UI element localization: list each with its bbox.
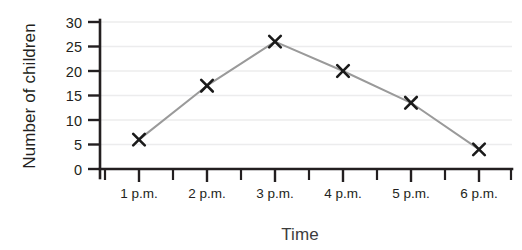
y-tick-label-10: 10 [66, 113, 82, 129]
y-tick-label-5: 5 [74, 137, 82, 153]
y-tick-label-15: 15 [66, 88, 82, 104]
data-point-2pm[interactable] [201, 80, 213, 92]
data-point-3pm[interactable] [269, 36, 281, 48]
y-axis-title: Number of children [20, 23, 39, 168]
data-point-6pm[interactable] [473, 144, 485, 156]
y-tick-label-30: 30 [66, 15, 82, 31]
y-axis [88, 20, 100, 178]
data-point-5pm[interactable] [405, 97, 417, 109]
y-tick-label-0: 0 [74, 162, 82, 178]
x-tick-labels: 1 p.m. 2 p.m. 3 p.m. 4 p.m. 5 p.m. 6 p.m… [120, 186, 498, 201]
chart-canvas: 30 25 20 15 10 5 0 1 p.m. 2 p.m. [0, 0, 522, 250]
x-axis [100, 169, 512, 182]
x-tick-label-1pm: 1 p.m. [120, 186, 158, 201]
x-tick-label-3pm: 3 p.m. [256, 186, 294, 201]
x-tick-label-2pm: 2 p.m. [188, 186, 226, 201]
x-tick-label-4pm: 4 p.m. [324, 186, 362, 201]
x-tick-label-6pm: 6 p.m. [460, 186, 498, 201]
x-axis-title: Time [281, 225, 319, 244]
y-tick-labels: 30 25 20 15 10 5 0 [66, 15, 82, 178]
y-tick-label-25: 25 [66, 39, 82, 55]
y-tick-label-20: 20 [66, 64, 82, 80]
data-point-1pm[interactable] [133, 134, 145, 146]
x-tick-label-5pm: 5 p.m. [392, 186, 430, 201]
gridlines [100, 22, 512, 145]
line-chart: 30 25 20 15 10 5 0 1 p.m. 2 p.m. [0, 0, 522, 250]
